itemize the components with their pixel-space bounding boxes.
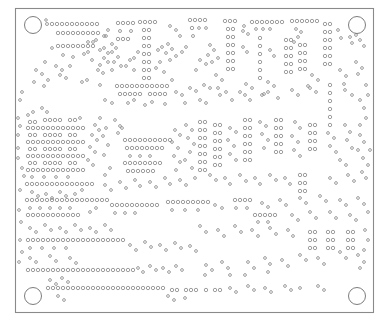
pcb-drill-drawing xyxy=(0,0,391,327)
board-canvas[interactable] xyxy=(0,0,391,327)
